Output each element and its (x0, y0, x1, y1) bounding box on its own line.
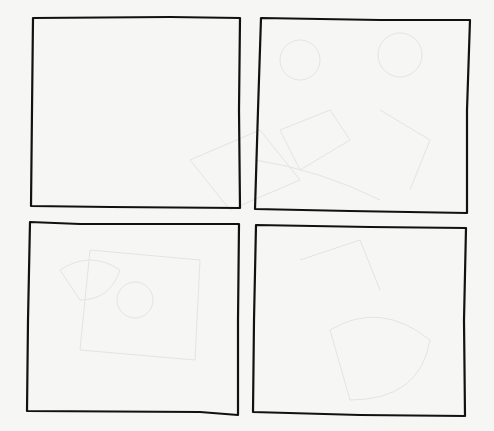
panel-3 (27, 222, 239, 415)
panel-frames (0, 0, 494, 431)
comic-page (0, 0, 494, 431)
panel-4 (253, 225, 466, 416)
panel-2 (255, 18, 470, 213)
panel-1 (31, 17, 240, 208)
